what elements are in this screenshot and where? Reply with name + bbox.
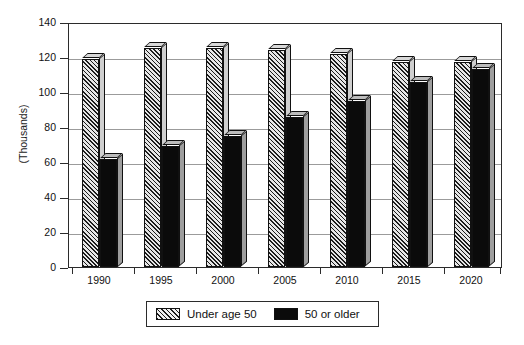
bar-fifty-or-older: [410, 76, 427, 268]
legend-label-50-or-older: 50 or older: [305, 308, 360, 320]
solid-swatch: [274, 308, 298, 320]
bar-group: [317, 24, 379, 267]
bar-face: [286, 117, 303, 268]
bar-fifty-or-older: [162, 140, 179, 267]
bar-fifty-or-older: [100, 153, 117, 268]
chart-figure: (Thousands) 020406080100120140 199019952…: [0, 0, 524, 345]
y-axis-tick: [60, 198, 68, 199]
bar-fifty-or-older: [472, 63, 489, 267]
bar-face: [472, 69, 489, 267]
y-axis-tick-label: 0: [10, 262, 56, 273]
x-axis-tick-label: 2000: [193, 274, 253, 286]
bar-under-age-50: [144, 42, 161, 267]
y-axis-tick-label: 120: [10, 52, 56, 63]
bar-under-age-50: [330, 48, 347, 268]
bar-face: [224, 136, 241, 267]
x-axis-tick-label: 2020: [441, 274, 501, 286]
legend-label-under-age-50: Under age 50: [187, 308, 257, 320]
plot-area: [68, 23, 502, 268]
bar-under-age-50: [82, 53, 99, 267]
bar-side-face: [117, 153, 123, 267]
y-axis-tick-label: 40: [10, 192, 56, 203]
y-axis-tick: [60, 128, 68, 129]
x-axis-tick: [500, 268, 501, 274]
bar-side-face: [489, 64, 495, 267]
x-axis-tick-label: 2005: [255, 274, 315, 286]
bar-fifty-or-older: [286, 111, 303, 268]
bar-face: [268, 50, 285, 267]
bar-group: [441, 24, 503, 267]
bar-side-face: [365, 95, 371, 266]
bar-fifty-or-older: [224, 130, 241, 267]
bar-group: [69, 24, 131, 267]
bar-face: [410, 82, 427, 268]
x-axis-tick-label: 2015: [379, 274, 439, 286]
bar-group: [131, 24, 193, 267]
y-axis-tick-label: 20: [10, 227, 56, 238]
bar-side-face: [427, 76, 433, 267]
bar-group: [255, 24, 317, 267]
x-axis-tick-label: 2010: [317, 274, 377, 286]
y-axis-tick: [60, 163, 68, 164]
bar-under-age-50: [268, 44, 285, 267]
y-axis-tick: [60, 233, 68, 234]
bar-under-age-50: [454, 56, 471, 267]
bar-face: [392, 62, 409, 267]
bar-face: [82, 59, 99, 267]
y-axis-tick-label: 80: [10, 122, 56, 133]
hatch-swatch: [156, 308, 180, 320]
x-axis-tick-label: 1995: [131, 274, 191, 286]
bar-fifty-or-older: [348, 95, 365, 267]
y-axis-tick: [60, 58, 68, 59]
y-axis-tick-label: 100: [10, 87, 56, 98]
chart-legend: Under age 50 50 or older: [146, 301, 379, 327]
y-axis-tick: [60, 268, 68, 269]
y-axis-tick: [60, 23, 68, 24]
bar-face: [348, 101, 365, 267]
bar-face: [206, 48, 223, 267]
bar-group: [193, 24, 255, 267]
bar-group: [379, 24, 441, 267]
y-axis-tick: [60, 93, 68, 94]
bar-face: [144, 48, 161, 267]
bar-face: [330, 54, 347, 268]
x-axis-tick-label: 1990: [69, 274, 129, 286]
bar-side-face: [241, 130, 247, 266]
bar-under-age-50: [392, 56, 409, 267]
bar-under-age-50: [206, 42, 223, 267]
bar-side-face: [303, 111, 309, 267]
plot-inner: [69, 24, 501, 267]
bar-side-face: [179, 141, 185, 267]
y-axis-tick-label: 60: [10, 157, 56, 168]
bar-face: [100, 159, 117, 268]
bar-face: [454, 62, 471, 267]
bar-face: [162, 146, 179, 267]
y-axis-tick-label: 140: [10, 17, 56, 28]
